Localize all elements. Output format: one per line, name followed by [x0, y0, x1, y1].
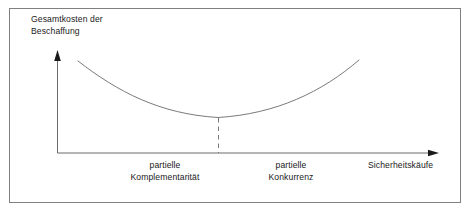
figure-container: Gesamtkosten der Beschaffung Sicherheits…	[0, 0, 470, 215]
x-axis-arrowhead	[428, 150, 439, 157]
x-axis-label: Sicherheitskäufe	[368, 160, 433, 172]
y-axis-label: Gesamtkosten der Beschaffung	[31, 14, 103, 37]
y-axis-arrowhead	[54, 50, 61, 61]
region-label-partielle-komplementaritaet: partielle Komplementarität	[105, 160, 225, 183]
region-label-partielle-konkurrenz: partielle Konkurrenz	[232, 160, 350, 183]
total-cost-curve	[78, 60, 359, 118]
